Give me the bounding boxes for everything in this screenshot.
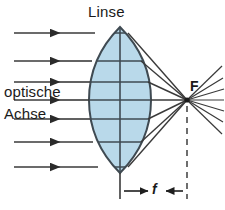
focal-point-marker	[184, 97, 189, 102]
refracted-ray	[148, 100, 187, 119]
optical-axis-label-line2: Achse	[4, 106, 46, 121]
focal-point-label: F	[190, 79, 199, 93]
lens-title-label: Linse	[88, 4, 125, 19]
focal-length-label: f	[152, 182, 157, 196]
incoming-rays	[14, 33, 98, 167]
diverging-rays	[187, 66, 224, 134]
diverging-ray	[187, 100, 223, 122]
lens-diagram: Linse optische Achse F f	[0, 0, 225, 210]
refracted-ray	[148, 82, 187, 100]
optical-axis-label-line1: optische	[4, 84, 61, 99]
